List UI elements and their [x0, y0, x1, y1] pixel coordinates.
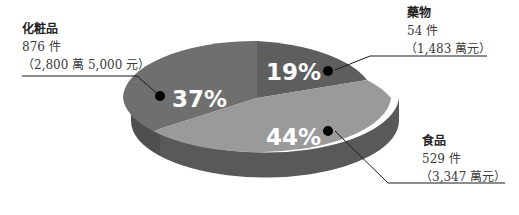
pct-cosmetics: 37% — [172, 86, 227, 112]
label-medicine: 藥物 54 件 （1,483 萬元） — [405, 4, 491, 58]
pct-medicine: 19% — [266, 59, 321, 85]
label-food-name: 食品 — [420, 132, 506, 150]
label-cosmetics: 化粧品 876 件 （2,800 萬 5,000 元） — [22, 20, 150, 74]
label-medicine-amount: （1,483 萬元） — [405, 40, 491, 58]
label-medicine-count: 54 件 — [405, 22, 491, 40]
label-cosmetics-count: 876 件 — [22, 38, 150, 56]
label-cosmetics-amount: （2,800 萬 5,000 元） — [22, 56, 150, 74]
label-medicine-name: 藥物 — [405, 4, 491, 22]
pct-food: 44% — [266, 124, 321, 150]
label-food: 食品 529 件 （3,347 萬元） — [420, 132, 506, 186]
label-cosmetics-name: 化粧品 — [22, 20, 150, 38]
label-food-amount: （3,347 萬元） — [420, 168, 506, 186]
label-food-count: 529 件 — [420, 150, 506, 168]
